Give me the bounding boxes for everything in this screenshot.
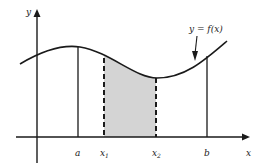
curve-label: y = f(x) bbox=[188, 24, 223, 34]
x-axis-label: x bbox=[246, 148, 251, 158]
x-axis-arrow-icon bbox=[242, 134, 250, 141]
y-axis-arrow-icon bbox=[34, 9, 41, 17]
pointer-arrow-icon bbox=[192, 51, 198, 61]
y-axis-label: y bbox=[25, 7, 32, 17]
label-a: a bbox=[75, 148, 80, 158]
label-x1: x1 bbox=[100, 148, 109, 159]
label-x2: x2 bbox=[152, 148, 161, 159]
label-b: b bbox=[204, 148, 210, 158]
area-under-curve-diagram: y x y = f(x) a x1 x2 b bbox=[0, 0, 268, 166]
